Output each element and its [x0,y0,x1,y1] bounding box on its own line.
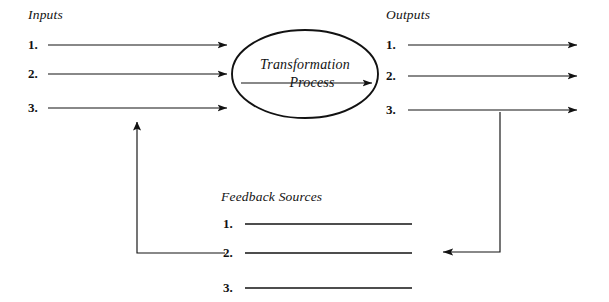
input-item-2-number: 2. [28,67,38,80]
inputs-title: Inputs [28,8,63,22]
outputs-title: Outputs [386,8,430,22]
feedback-item-2-number: 2. [223,246,233,259]
feedback-title: Feedback Sources [221,190,322,204]
process-label-line-2: Process [262,76,362,90]
feedback-item-1-number: 1. [223,217,233,230]
diagram-connectors [0,0,609,302]
left-feedback-loop [137,122,225,253]
right-feedback-loop [443,112,500,252]
input-item-3-number: 3. [28,101,38,114]
output-item-1-number: 1. [386,38,396,51]
diagram-canvas: Inputs 1. 2. 3. Transformation Process O… [0,0,609,302]
transformation-process-ellipse [232,30,378,118]
input-item-1-number: 1. [28,38,38,51]
process-label-line-1: Transformation [250,58,360,72]
output-item-3-number: 3. [386,103,396,116]
output-item-2-number: 2. [386,69,396,82]
feedback-item-3-number: 3. [223,281,233,294]
